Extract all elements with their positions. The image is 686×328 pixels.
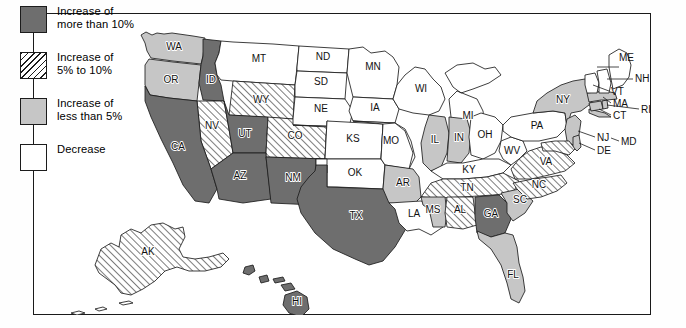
state-label-LA: LA bbox=[408, 208, 421, 219]
state-label-VA: VA bbox=[540, 156, 553, 167]
state-label-DE: DE bbox=[597, 145, 611, 156]
legend-swatch-hatch-icon bbox=[20, 52, 47, 79]
leader-MD bbox=[611, 138, 619, 141]
map-figure: WA OR ID MT NV WY CA UT CO AZ NM ND SD N… bbox=[0, 0, 686, 328]
state-label-MD: MD bbox=[621, 136, 637, 147]
alaska-aleutians3 bbox=[119, 301, 133, 305]
state-label-KS: KS bbox=[346, 133, 360, 144]
state-FL[interactable] bbox=[477, 231, 525, 303]
leader-NJ bbox=[578, 131, 595, 137]
state-label-OR: OR bbox=[164, 74, 179, 85]
map-legend: Increase of more than 10% Increase of 5%… bbox=[20, 5, 145, 189]
state-label-IN: IN bbox=[454, 132, 464, 143]
state-label-CO: CO bbox=[288, 130, 303, 141]
legend-swatch-dark-icon bbox=[20, 6, 47, 33]
state-label-AK: AK bbox=[141, 246, 155, 257]
state-label-NY: NY bbox=[556, 94, 570, 105]
state-label-NH: NH bbox=[635, 73, 649, 84]
state-label-UT: UT bbox=[238, 128, 251, 139]
legend-item-decrease[interactable]: Decrease bbox=[20, 143, 145, 179]
state-label-GA: GA bbox=[484, 208, 499, 219]
state-label-NE: NE bbox=[314, 103, 328, 114]
state-MO-b[interactable] bbox=[381, 123, 413, 169]
state-label-WA: WA bbox=[166, 41, 182, 52]
state-label-AL: AL bbox=[454, 204, 467, 215]
state-CT[interactable] bbox=[589, 101, 603, 111]
hawaii-oahu bbox=[259, 275, 269, 283]
state-label-OK: OK bbox=[348, 167, 363, 178]
state-label-RI: RI bbox=[641, 104, 651, 115]
state-RI[interactable] bbox=[602, 100, 608, 109]
state-MN[interactable] bbox=[347, 47, 399, 99]
state-label-MN: MN bbox=[365, 61, 381, 72]
state-label-AR: AR bbox=[396, 177, 410, 188]
state-label-CA: CA bbox=[171, 141, 185, 152]
state-label-TN: TN bbox=[460, 182, 473, 193]
state-label-MS: MS bbox=[426, 204, 441, 215]
state-label-VT: VT bbox=[611, 86, 624, 97]
state-AK[interactable] bbox=[95, 223, 229, 295]
state-label-FL: FL bbox=[507, 269, 519, 280]
state-label-PA: PA bbox=[531, 120, 544, 131]
state-label-NM: NM bbox=[285, 172, 301, 183]
hawaii-kauai bbox=[243, 265, 255, 275]
state-label-WY: WY bbox=[253, 94, 269, 105]
state-label-HI: HI bbox=[292, 296, 302, 307]
state-label-KY: KY bbox=[462, 164, 476, 175]
state-label-TX: TX bbox=[350, 210, 363, 221]
state-label-ME: ME bbox=[619, 52, 634, 63]
state-label-ID: ID bbox=[206, 74, 216, 85]
legend-swatch-light-icon bbox=[20, 98, 47, 125]
state-VT[interactable] bbox=[585, 73, 599, 93]
state-label-WV: WV bbox=[504, 145, 520, 156]
legend-item-increase-more-than-10[interactable]: Increase of more than 10% bbox=[20, 5, 145, 41]
state-label-IL: IL bbox=[431, 134, 440, 145]
state-label-SC: SC bbox=[513, 194, 527, 205]
legend-label-increase-more-than-10: Increase of more than 10% bbox=[57, 5, 134, 31]
state-label-WI: WI bbox=[415, 83, 427, 94]
state-label-MT: MT bbox=[252, 53, 266, 64]
state-label-MO: MO bbox=[383, 135, 399, 146]
legend-swatch-white-icon bbox=[20, 144, 47, 171]
legend-item-increase-less-than-5[interactable]: Increase of less than 5% bbox=[20, 97, 145, 133]
state-label-OH: OH bbox=[478, 129, 493, 140]
hawaii-maui bbox=[281, 283, 295, 291]
state-label-NJ: NJ bbox=[597, 132, 609, 143]
state-label-NC: NC bbox=[532, 179, 546, 190]
legend-label-increase-less-than-5: Increase of less than 5% bbox=[57, 97, 122, 123]
alaska-aleutians bbox=[71, 311, 85, 315]
state-label-ND: ND bbox=[316, 51, 330, 62]
legend-label-decrease: Decrease bbox=[57, 143, 106, 156]
state-label-AZ: AZ bbox=[234, 170, 247, 181]
alaska-aleutians2 bbox=[95, 307, 107, 311]
leader-DE bbox=[579, 143, 595, 150]
legend-item-increase-5-to-10[interactable]: Increase of 5% to 10% bbox=[20, 51, 145, 87]
legend-label-increase-5-to-10: Increase of 5% to 10% bbox=[57, 51, 113, 77]
state-label-IA: IA bbox=[370, 102, 380, 113]
state-label-MI: MI bbox=[462, 110, 473, 121]
state-label-CT: CT bbox=[613, 110, 626, 121]
state-label-SD: SD bbox=[314, 76, 328, 87]
hawaii-molokai bbox=[273, 277, 285, 283]
state-label-NV: NV bbox=[205, 120, 219, 131]
